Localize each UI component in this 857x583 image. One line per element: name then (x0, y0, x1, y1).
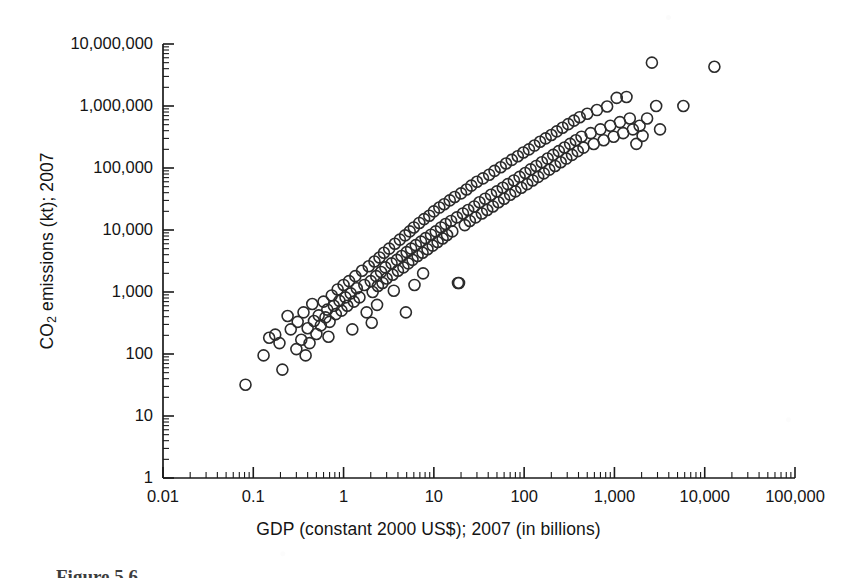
scatter-point (409, 279, 420, 290)
scatter-point (651, 101, 662, 112)
x-axis-title: GDP (constant 2000 US$); 2007 (in billio… (0, 519, 857, 540)
scatter-point (418, 268, 429, 279)
y-axis-title: CO2 emissions (kt); 2007 (37, 152, 59, 349)
scatter-points (240, 57, 720, 390)
scatter-point (298, 307, 309, 318)
scatter-point (240, 379, 251, 390)
scatter-point (277, 364, 288, 375)
scatter-point (258, 350, 269, 361)
scatter-point (372, 299, 383, 310)
scatter-point (307, 299, 318, 310)
scatter-point (637, 130, 648, 141)
scatter-point (400, 307, 411, 318)
scatter-point (602, 101, 613, 112)
y-tick-label: 10 (0, 406, 153, 425)
scatter-point (646, 57, 657, 68)
y-tick-label: 100 (0, 344, 153, 363)
scatter-point (655, 124, 666, 135)
scatter-point (323, 331, 334, 342)
y-tick-label: 1 (0, 468, 153, 487)
scatter-point (347, 324, 358, 335)
scatter-point (627, 124, 638, 135)
y-tick-label: 100,000 (0, 158, 153, 177)
scatter-point (300, 350, 311, 361)
scatter-point (366, 317, 377, 328)
scatter-point (591, 105, 602, 116)
scatter-point (709, 61, 720, 72)
y-tick-label: 10,000,000 (0, 34, 153, 53)
x-tick-label: 100,000 (735, 487, 855, 506)
y-tick-label: 10,000 (0, 220, 153, 239)
y-tick-label: 1,000,000 (0, 96, 153, 115)
y-tick-label: 1,000 (0, 282, 153, 301)
scatter-point (361, 307, 372, 318)
scatter-point (282, 311, 293, 322)
scatter-point (624, 113, 635, 124)
scatter-point (388, 285, 399, 296)
scatter-point (678, 101, 689, 112)
figure-container: CO2 emissions (kt); 2007 GDP (constant 2… (0, 0, 857, 583)
scatter-point (642, 113, 653, 124)
